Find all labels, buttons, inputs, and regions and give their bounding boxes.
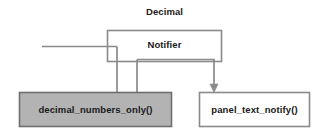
node-panel-text-notify-box [200, 93, 310, 127]
diagram-canvas: Decimal Notifier decimal_numbers_only() … [0, 0, 329, 137]
arrowhead-icon [210, 84, 218, 93]
diagram-graphics [0, 0, 329, 137]
node-decimal-numbers-only-box [20, 93, 172, 127]
connector-notifier-to-panel [137, 60, 214, 87]
node-notifier-box [108, 31, 222, 62]
